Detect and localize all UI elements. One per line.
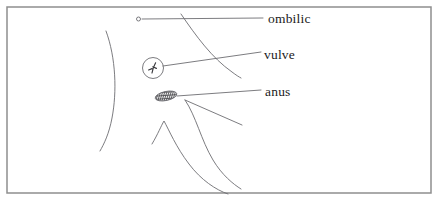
marker-ombilic-dot xyxy=(137,17,141,21)
leader-line-ombilic xyxy=(142,18,263,19)
outline-hind-leg-inner-curve xyxy=(185,100,241,189)
label-anus: anus xyxy=(265,85,291,99)
label-ombilic: ombilic xyxy=(268,12,311,26)
outline-hind-leg-outer-curve xyxy=(152,121,228,194)
outline-flank-left-curve xyxy=(100,31,115,151)
marker-vulve-glyph xyxy=(149,63,157,73)
leader-line-group xyxy=(142,18,263,96)
anatomical-marker-group xyxy=(137,17,183,103)
panel-border xyxy=(7,7,431,193)
outline-tail-leader-stroke xyxy=(185,100,242,125)
leader-line-anus xyxy=(177,90,261,96)
body-outline-group xyxy=(100,14,242,194)
line-drawing-canvas xyxy=(0,0,439,201)
outline-udder-right-curve xyxy=(181,14,241,78)
anatomical-figure-panel: ombilic vulve anus xyxy=(0,0,439,201)
label-vulve: vulve xyxy=(264,48,295,62)
